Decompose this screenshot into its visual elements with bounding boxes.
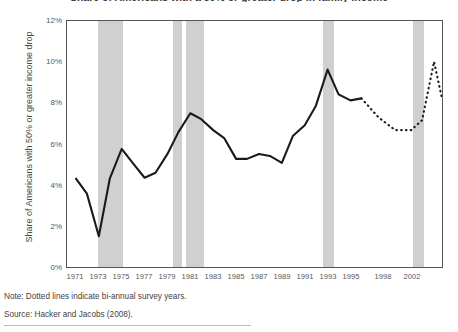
y-tick-label: 12% bbox=[28, 17, 62, 25]
chart-figure: Share of Americans with a 50% or greater… bbox=[0, 0, 458, 332]
note-text: Note: Dotted lines indicate bi-annual su… bbox=[4, 292, 444, 301]
series-lines bbox=[67, 21, 442, 267]
x-axis-tick-labels: 1971 1973 1975 1977 1979 1981 1983 1985 … bbox=[0, 272, 458, 286]
source-text: Source: Hacker and Jacobs (2008). bbox=[4, 310, 444, 319]
y-tick-label: 10% bbox=[28, 58, 62, 66]
series-dotted-line bbox=[361, 62, 442, 130]
footer-divider bbox=[4, 325, 251, 326]
y-tick-label: 4% bbox=[28, 182, 62, 190]
x-tick-label: 2002 bbox=[392, 272, 432, 282]
y-tick-label: 6% bbox=[28, 141, 62, 149]
plot-area bbox=[66, 20, 443, 268]
y-tick-label: 0% bbox=[28, 264, 62, 272]
series-solid-line bbox=[76, 70, 361, 237]
y-tick-label: 2% bbox=[28, 223, 62, 231]
footnotes: Note: Dotted lines indicate bi-annual su… bbox=[4, 292, 444, 328]
y-tick-label: 8% bbox=[28, 99, 62, 107]
chart-title: Share of Americans with a 50% or greater… bbox=[0, 0, 458, 2]
